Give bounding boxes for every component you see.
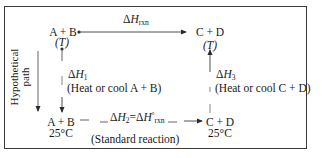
delta-h2-symbol: ΔH [110,111,126,123]
delta-h1-symbol: ΔH [68,68,84,80]
right-edge-label: ΔH3 [216,68,235,80]
side-label-line2: path [20,42,31,112]
left-edge-label: ΔH1 [68,68,87,80]
left-arrow [60,47,63,112]
node-top-right-species: C + D [192,26,228,38]
delta-h3-subscript: 3 [232,73,236,82]
bottom-edge-label: ΔH2=ΔH°rxn [110,111,165,123]
node-bottom-right-condition: 25°C [202,127,238,139]
hypothetical-path-label: Hypothetical path [9,42,31,112]
node-top-left-condition: (T) [52,36,72,48]
right-edge-note: (Heat or cool C + D) [215,82,311,94]
standard-delta-h-symbol: ΔH [136,111,152,123]
bottom-edge-note: (Standard reaction) [91,133,179,145]
rxn-subscript: rxn [139,18,149,27]
top-edge-label: ΔHrxn [123,13,149,25]
left-edge-note: (Heat or cool A + B) [67,82,161,94]
node-bottom-left-condition: 25°C [44,127,78,139]
delta-h3-symbol: ΔH [216,68,232,80]
node-top-right-condition: (T) [200,39,220,51]
delta-h-symbol: ΔH [123,13,139,25]
standard-rxn-subscript: rxn [155,116,165,125]
delta-h1-subscript: 1 [84,73,88,82]
top-arrow [77,30,186,33]
